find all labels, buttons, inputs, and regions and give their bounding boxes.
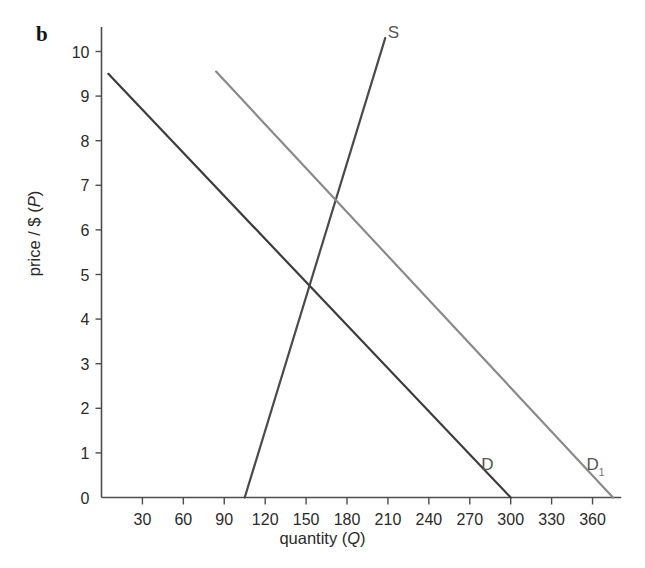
series-label-subscript-d1: 1 bbox=[598, 466, 604, 478]
series-label-d: D bbox=[481, 455, 493, 474]
x-axis-tick-label: 270 bbox=[456, 511, 483, 528]
x-axis-tick-label: 180 bbox=[334, 511, 361, 528]
y-axis-tick-label: 7 bbox=[81, 177, 90, 194]
x-axis-tick-label: 240 bbox=[416, 511, 443, 528]
y-axis-tick-label: 10 bbox=[72, 44, 90, 61]
series-label-s: S bbox=[388, 23, 399, 42]
x-axis-tick-label: 210 bbox=[375, 511, 402, 528]
series-label-d1: D bbox=[586, 455, 598, 474]
x-axis-tick-label: 330 bbox=[538, 511, 565, 528]
x-axis-tick-label: 30 bbox=[134, 511, 152, 528]
series-line-d1 bbox=[216, 72, 613, 498]
y-axis-tick-label: 4 bbox=[81, 311, 90, 328]
x-axis-tick-label: 60 bbox=[174, 511, 192, 528]
y-axis-tick-label: 2 bbox=[81, 400, 90, 417]
y-axis-tick-label: 8 bbox=[81, 133, 90, 150]
series-line-s bbox=[245, 38, 385, 497]
y-axis-tick-label: 6 bbox=[81, 222, 90, 239]
y-axis-tick-label: 9 bbox=[81, 88, 90, 105]
figure-panel-b: b price / $ (P) quantity (Q) 01234567891… bbox=[0, 0, 645, 568]
x-axis-tick-label: 150 bbox=[293, 511, 320, 528]
y-axis-tick-label: 3 bbox=[81, 356, 90, 373]
x-axis-tick-label: 360 bbox=[579, 511, 606, 528]
x-axis-tick-label: 300 bbox=[497, 511, 524, 528]
y-axis-tick-label: 0 bbox=[81, 490, 90, 507]
y-axis-tick-label: 5 bbox=[81, 267, 90, 284]
x-axis-tick-label: 90 bbox=[215, 511, 233, 528]
y-axis-tick-label: 1 bbox=[81, 445, 90, 462]
chart-plot-area: 0123456789103060901201501802102402703003… bbox=[0, 0, 645, 568]
x-axis-tick-label: 120 bbox=[252, 511, 279, 528]
